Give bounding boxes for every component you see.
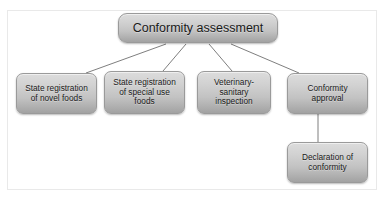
node-declaration-of-conformity[interactable]: Declaration of conformity (287, 142, 368, 183)
node-label: Conformity assessment (123, 21, 273, 36)
node-conformity-assessment[interactable]: Conformity assessment (118, 13, 278, 43)
node-label: Veterinary-sanitary inspection (202, 78, 266, 107)
diagram-canvas: Conformity assessment State registration… (0, 0, 385, 200)
node-label: State registration of novel foods (21, 84, 92, 103)
node-label: Declaration of conformity (292, 153, 363, 172)
node-veterinary-sanitary-inspection[interactable]: Veterinary-sanitary inspection (197, 71, 271, 114)
node-state-registration-special-use-foods[interactable]: State registration of special use foods (104, 71, 185, 114)
node-label: Conformity approval (292, 84, 363, 103)
node-state-registration-novel-foods[interactable]: State registration of novel foods (16, 73, 97, 114)
node-conformity-approval[interactable]: Conformity approval (287, 73, 368, 114)
node-label: State registration of special use foods (109, 78, 180, 107)
